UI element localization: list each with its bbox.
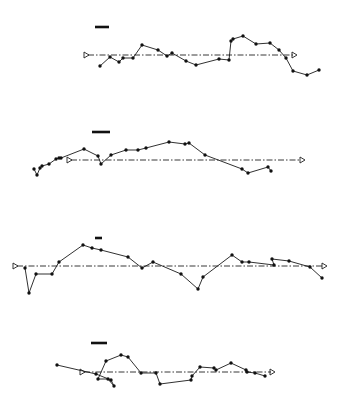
data-point: [246, 171, 249, 174]
data-point: [268, 41, 271, 44]
panel-3: [13, 238, 327, 295]
data-point: [32, 167, 35, 170]
data-point: [253, 371, 256, 374]
data-point: [154, 371, 157, 374]
data-point: [23, 266, 26, 269]
data-point: [187, 141, 190, 144]
data-point: [126, 255, 129, 258]
data-point: [140, 266, 143, 269]
data-point: [158, 382, 161, 385]
data-point: [167, 140, 170, 143]
data-point: [99, 248, 102, 251]
data-point: [165, 54, 168, 57]
data-point: [50, 272, 53, 275]
data-point: [272, 263, 275, 266]
data-point: [320, 276, 323, 279]
data-point: [190, 374, 193, 377]
trajectory-plots: [0, 0, 350, 413]
data-point: [308, 265, 311, 268]
data-point: [90, 246, 93, 249]
data-point: [117, 60, 120, 63]
trajectory-line: [100, 36, 319, 75]
data-point: [229, 361, 232, 364]
data-point: [217, 57, 220, 60]
data-point: [131, 56, 134, 59]
data-point: [245, 370, 248, 373]
data-point: [27, 291, 30, 294]
panel-4: [55, 343, 275, 388]
data-point: [189, 378, 192, 381]
data-point: [179, 272, 182, 275]
data-point: [109, 153, 112, 156]
data-point: [266, 165, 269, 168]
data-point: [284, 56, 287, 59]
start-arrow-icon: [80, 369, 85, 375]
data-point: [96, 377, 99, 380]
data-point: [254, 42, 257, 45]
data-point: [94, 372, 97, 375]
data-point: [287, 259, 290, 262]
data-point: [112, 384, 115, 387]
data-point: [99, 162, 102, 165]
data-point: [81, 243, 84, 246]
data-point: [151, 260, 154, 263]
data-point: [59, 156, 62, 159]
end-arrow-icon: [322, 263, 327, 269]
data-point: [184, 59, 187, 62]
data-point: [121, 56, 124, 59]
trajectory-line: [25, 245, 322, 293]
data-point: [198, 365, 201, 368]
data-point: [269, 169, 272, 172]
data-point: [34, 272, 37, 275]
data-point: [126, 355, 129, 358]
panel-2: [32, 132, 305, 177]
data-point: [241, 34, 244, 37]
data-point: [108, 55, 111, 58]
data-point: [317, 68, 320, 71]
data-point: [227, 58, 230, 61]
data-point: [214, 368, 217, 371]
data-point: [136, 148, 139, 151]
panel-1: [84, 27, 321, 77]
data-point: [183, 142, 186, 145]
data-point: [104, 359, 107, 362]
data-point: [54, 157, 57, 160]
data-point: [240, 167, 243, 170]
data-point: [55, 363, 58, 366]
data-point: [231, 37, 234, 40]
data-point: [119, 353, 122, 356]
start-arrow-icon: [67, 157, 72, 163]
data-point: [247, 260, 250, 263]
data-point: [203, 153, 206, 156]
data-point: [291, 69, 294, 72]
data-point: [47, 162, 50, 165]
data-point: [194, 63, 197, 66]
data-point: [109, 378, 112, 381]
start-arrow-icon: [13, 263, 18, 269]
data-point: [270, 257, 273, 260]
data-point: [57, 260, 60, 263]
data-point: [240, 260, 243, 263]
data-point: [98, 64, 101, 67]
data-point: [106, 377, 109, 380]
data-point: [277, 48, 280, 51]
start-arrow-icon: [84, 52, 89, 58]
data-point: [201, 275, 204, 278]
end-arrow-icon: [300, 157, 305, 163]
data-point: [230, 253, 233, 256]
figure-canvas: [0, 0, 350, 413]
data-point: [139, 371, 142, 374]
data-point: [35, 173, 38, 176]
data-point: [96, 154, 99, 157]
data-point: [140, 43, 143, 46]
data-point: [196, 287, 199, 290]
data-point: [124, 148, 127, 151]
data-point: [305, 73, 308, 76]
data-point: [170, 51, 173, 54]
data-point: [82, 147, 85, 150]
data-point: [40, 164, 43, 167]
data-point: [263, 374, 266, 377]
data-point: [144, 146, 147, 149]
trajectory-line: [57, 355, 265, 386]
data-point: [156, 48, 159, 51]
